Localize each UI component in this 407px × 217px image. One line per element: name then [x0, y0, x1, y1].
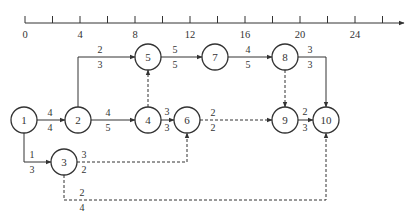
edge-label-top: 3: [82, 149, 87, 160]
edge-1-3: [24, 133, 51, 162]
edge-label-bottom: 4: [80, 202, 85, 213]
axis-tick-label: 12: [185, 29, 196, 40]
node-4: 4: [135, 107, 161, 133]
network-diagram: 04812162024 444523335545332223133224 123…: [0, 0, 407, 217]
edge-label-top: 4: [246, 44, 251, 55]
edge-label-bottom: 3: [308, 59, 313, 70]
node-label: 3: [61, 156, 67, 168]
node-label: 6: [184, 114, 190, 126]
axis-tick-label: 16: [240, 29, 251, 40]
edge-label-top: 2: [80, 187, 85, 198]
node-10: 10: [313, 107, 339, 133]
node-label: 7: [212, 51, 218, 63]
axis-tick-label: 4: [77, 29, 83, 40]
node-1: 1: [11, 107, 37, 133]
edge-label-bottom: 3: [98, 59, 103, 70]
edge-label-bottom: 5: [173, 59, 178, 70]
axis-tick-label: 24: [350, 29, 361, 40]
edge-label-bottom: 4: [48, 122, 53, 133]
node-8: 8: [272, 44, 298, 70]
edge-label-bottom: 5: [246, 59, 251, 70]
node-9: 9: [272, 107, 298, 133]
edge-label-bottom: 3: [165, 122, 170, 133]
time-axis: 04812162024: [22, 16, 404, 40]
node-label: 4: [145, 114, 151, 126]
edge-label-top: 1: [30, 149, 35, 160]
edge-label-top: 3: [165, 106, 170, 117]
node-6: 6: [174, 107, 200, 133]
axis-tick-label: 20: [295, 29, 306, 40]
edge-label-bottom: 3: [303, 122, 308, 133]
edge-label-bottom: 5: [106, 122, 111, 133]
edge-label-bottom: 2: [211, 122, 216, 133]
node-label: 1: [21, 114, 27, 126]
edge-label-bottom: 3: [30, 164, 35, 175]
edge-label-bottom: 2: [82, 164, 87, 175]
node-label: 10: [321, 114, 333, 126]
node-label: 8: [282, 51, 288, 63]
node-3: 3: [51, 149, 77, 175]
edge-label-top: 3: [308, 44, 313, 55]
edge-2-5: [78, 57, 135, 107]
edge-label-top: 4: [106, 107, 111, 118]
edge-label-top: 2: [98, 44, 103, 55]
edge-label-top: 2: [303, 106, 308, 117]
edge-label-top: 5: [173, 44, 178, 55]
node-2: 2: [65, 107, 91, 133]
node-label: 2: [75, 114, 81, 126]
node-label: 5: [145, 51, 151, 63]
edge-3-6: [77, 133, 187, 162]
node-5: 5: [135, 44, 161, 70]
edge-label-top: 2: [211, 107, 216, 118]
edge-3-10: [64, 133, 326, 200]
edge-label-top: 4: [48, 107, 53, 118]
axis-tick-label: 0: [22, 29, 27, 40]
node-label: 9: [282, 114, 288, 126]
node-7: 7: [202, 44, 228, 70]
axis-tick-label: 8: [132, 29, 137, 40]
